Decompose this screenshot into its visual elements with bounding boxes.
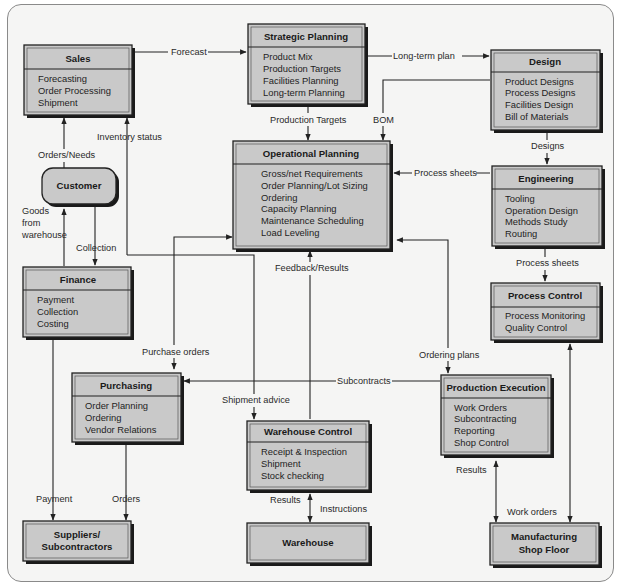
node-shop-floor: Manufacturing Shop Floor: [490, 523, 602, 568]
node-item: Collection: [37, 306, 78, 317]
label-shipment-advice: Shipment advice: [222, 395, 290, 405]
node-item: Order Planning/Lot Sizing: [261, 180, 368, 191]
node-title-line2: Subcontractors: [42, 541, 113, 552]
label-designs: Designs: [531, 141, 565, 151]
node-item: Reporting: [454, 425, 495, 436]
node-item: Costing: [37, 318, 69, 329]
node-item: Capacity Planning: [261, 203, 337, 214]
node-title-line1: Suppliers/: [54, 529, 101, 540]
node-title: Purchasing: [100, 380, 152, 391]
label-feedback-results: Feedback/Results: [275, 263, 349, 273]
node-item: Routing: [505, 228, 537, 239]
node-suppliers: Suppliers/ Subcontractors: [23, 521, 134, 564]
node-engineering: Engineering Tooling Operation Design Met…: [492, 166, 605, 249]
node-item: Facilities Planning: [263, 75, 339, 86]
node-warehouse: Warehouse: [247, 523, 372, 566]
diagram-canvas: Forecast Long-term plan Production Targe…: [0, 0, 623, 587]
node-title: Design: [529, 56, 561, 67]
node-title: Operational Planning: [263, 148, 360, 159]
node-title: Engineering: [518, 173, 574, 184]
node-customer: Customer: [42, 168, 119, 207]
node-title: Strategic Planning: [264, 31, 348, 42]
node-strategic-planning: Strategic Planning Product Mix Productio…: [248, 24, 368, 107]
label-results-wh: Results: [270, 495, 301, 505]
node-item: Maintenance Scheduling: [261, 215, 364, 226]
label-work-orders: Work orders: [507, 507, 557, 517]
node-item: Ordering: [261, 192, 297, 203]
node-item: Shipment: [261, 458, 301, 469]
label-purchase-orders: Purchase orders: [142, 347, 210, 357]
node-item: Quality Control: [505, 322, 567, 333]
node-item: Product Designs: [505, 76, 574, 87]
node-item: Production Targets: [263, 63, 341, 74]
node-design: Design Product Designs Process Designs F…: [491, 50, 603, 133]
node-item: Payment: [37, 294, 74, 305]
label-subcontracts: Subcontracts: [337, 376, 391, 386]
node-title: Sales: [65, 53, 90, 64]
node-item: Order Processing: [38, 85, 111, 96]
label-inventory-status: Inventory status: [97, 132, 162, 142]
node-item: Load Leveling: [261, 227, 319, 238]
node-item: Operation Design: [505, 205, 578, 216]
label-forecast: Forecast: [171, 47, 207, 57]
node-title: Warehouse: [282, 537, 333, 548]
node-item: Bill of Materials: [505, 111, 569, 122]
node-title: Warehouse Control: [264, 426, 352, 437]
label-bom: BOM: [373, 115, 394, 125]
node-finance: Finance Payment Collection Costing: [23, 267, 134, 340]
label-production-targets: Production Targets: [270, 115, 347, 125]
label-long-term-plan: Long-term plan: [393, 51, 455, 61]
node-item: Gross/net Requirements: [261, 168, 363, 179]
label-process-sheets-pc: Process sheets: [516, 258, 579, 268]
node-item: Vendor Relations: [85, 424, 157, 435]
label-ordering-plans: Ordering plans: [419, 350, 480, 360]
node-item: Process Monitoring: [505, 310, 585, 321]
label-orders-needs: Orders/Needs: [38, 150, 96, 160]
node-warehouse-control: Warehouse Control Receipt & Inspection S…: [247, 421, 372, 493]
label-results-pe: Results: [456, 465, 487, 475]
label-process-sheets-op: Process sheets: [414, 168, 477, 178]
label-goods-2: from: [22, 218, 41, 228]
node-item: Methods Study: [505, 216, 568, 227]
node-item: Forecasting: [38, 73, 87, 84]
node-title-line2: Shop Floor: [519, 544, 570, 555]
node-item: Order Planning: [85, 400, 148, 411]
node-item: Subcontracting: [454, 413, 517, 424]
node-title: Customer: [57, 180, 102, 191]
node-title: Process Control: [508, 290, 582, 301]
node-item: Stock checking: [261, 470, 324, 481]
node-purchasing: Purchasing Order Planning Ordering Vendo…: [72, 373, 184, 445]
label-goods-1: Goods: [22, 206, 49, 216]
node-title-line1: Manufacturing: [511, 531, 577, 542]
node-item: Shipment: [38, 97, 78, 108]
node-process-control: Process Control Process Monitoring Quali…: [491, 283, 603, 343]
node-item: Facilities Design: [505, 99, 573, 110]
node-item: Process Designs: [505, 87, 576, 98]
node-item: Shop Control: [454, 437, 509, 448]
node-item: Ordering: [85, 412, 121, 423]
node-item: Receipt & Inspection: [261, 446, 347, 457]
node-title: Production Execution: [446, 382, 545, 393]
node-item: Product Mix: [263, 51, 313, 62]
label-goods-3: warehouse: [21, 230, 67, 240]
node-operational-planning: Operational Planning Gross/net Requireme…: [233, 141, 393, 252]
node-sales: Sales Forecasting Order Processing Shipm…: [24, 45, 135, 118]
node-item: Work Orders: [454, 402, 507, 413]
label-payment: Payment: [36, 494, 73, 504]
node-item: Long-term Planning: [263, 87, 345, 98]
label-orders: Orders: [112, 494, 140, 504]
node-production-execution: Production Execution Work Orders Subcont…: [441, 375, 554, 458]
label-collection: Collection: [76, 243, 116, 253]
edge-bom: [383, 80, 490, 140]
node-title: Finance: [60, 274, 96, 285]
label-instructions: Instructions: [320, 504, 367, 514]
node-item: Tooling: [505, 193, 535, 204]
